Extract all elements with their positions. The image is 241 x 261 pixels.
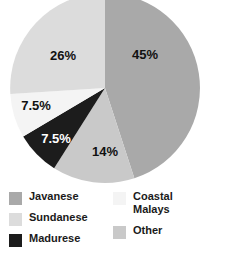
chart-legend: Javanese Sundanese Madurese Coastal Mala… [0,190,241,261]
legend-label-sundanese: Sundanese [29,211,88,224]
legend-label-coastal-malays: Coastal Malays [133,190,173,216]
legend-column-right: Coastal Malays Other [113,190,173,245]
pie-chart-plot: 45% 26% 7.5% 7.5% 14% [0,0,241,186]
pie-slice-sundanese[interactable] [10,0,105,94]
legend-swatch-javanese [9,192,22,205]
legend-item-javanese[interactable]: Javanese [9,190,88,207]
legend-swatch-sundanese [9,213,22,226]
legend-item-coastal-malays[interactable]: Coastal Malays [113,190,173,220]
legend-swatch-madurese [9,234,22,247]
pie-chart-figure: 45% 26% 7.5% 7.5% 14% Javanese Sundanese… [0,0,241,261]
legend-item-other[interactable]: Other [113,224,173,241]
legend-label-javanese: Javanese [29,190,79,203]
legend-swatch-coastal-malays [113,192,126,205]
pie-svg: 45% 26% 7.5% 7.5% 14% [0,0,241,186]
pie-label-sundanese: 26% [50,48,76,63]
legend-item-madurese[interactable]: Madurese [9,232,88,249]
pie-label-other: 14% [92,144,118,159]
legend-label-madurese: Madurese [29,232,80,245]
legend-label-other: Other [133,224,162,237]
pie-label-javanese: 45% [132,47,158,62]
pie-label-coastal-malays: 7.5% [21,98,51,113]
legend-column-left: Javanese Sundanese Madurese [9,190,88,253]
legend-item-sundanese[interactable]: Sundanese [9,211,88,228]
legend-swatch-other [113,226,126,239]
pie-label-madurese: 7.5% [41,131,71,146]
